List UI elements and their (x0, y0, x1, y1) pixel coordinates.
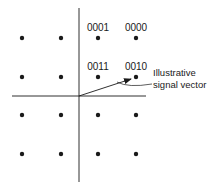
annotation-leader-line (117, 82, 152, 86)
point-label-0011: 0011 (87, 61, 109, 72)
constellation-point (96, 113, 100, 117)
constellation-point (20, 75, 24, 79)
constellation-point (96, 152, 100, 156)
constellation-point (20, 152, 24, 156)
point-label-0000: 0000 (125, 22, 148, 33)
constellation-point (20, 113, 24, 117)
point-label-0001: 0001 (87, 22, 110, 33)
constellation-point (134, 113, 138, 117)
constellation-point (59, 113, 63, 117)
point-label-0010: 0010 (125, 61, 148, 72)
constellation-point (134, 75, 138, 79)
constellation-diagram: 0001000000110010 Illustrative signal vec… (0, 0, 222, 193)
constellation-point (20, 36, 24, 40)
constellation-point (96, 36, 100, 40)
signal-vector-arrow (79, 79, 131, 96)
constellation-point (134, 152, 138, 156)
constellation-point (59, 36, 63, 40)
annotation-line-2: signal vector (153, 79, 206, 90)
constellation-point (96, 75, 100, 79)
constellation-point (59, 152, 63, 156)
point-labels: 0001000000110010 (87, 22, 148, 72)
constellation-point (134, 36, 138, 40)
constellation-point (59, 75, 63, 79)
annotation-line-1: Illustrative (153, 67, 196, 78)
